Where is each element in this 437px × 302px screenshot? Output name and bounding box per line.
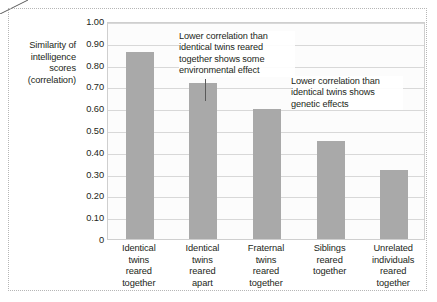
y-axis-title-line-3: scores (6, 63, 76, 75)
leader-line-svg (0, 0, 28, 14)
bar[interactable] (253, 109, 281, 239)
y-axis-title: Similarity of intelligence scores (corre… (6, 40, 76, 86)
x-axis-tick-label-line: together (107, 278, 171, 290)
y-axis-tick-label: 0.40 (72, 148, 104, 158)
x-axis-tick-label: Unrelatedindividualsrearedtogether (361, 243, 425, 289)
annotation-genetic-effects: Lower correlation than identical twins s… (291, 76, 403, 110)
x-axis-tick-label-line: Identical (107, 243, 171, 255)
annotation-1-line-2: identical twins reared (179, 42, 295, 53)
y-axis-title-line-2: intelligence (6, 52, 76, 64)
x-axis-tick-label-line: twins (171, 255, 235, 267)
x-axis-tick-label-line: Identical (171, 243, 235, 255)
x-axis-tick-label-line: reared (107, 266, 171, 278)
x-axis-tick-label-line: together (361, 278, 425, 290)
x-axis-tick-label-line: reared (171, 266, 235, 278)
x-axis-tick-label-line: reared (234, 266, 298, 278)
annotation-1-line-3: together shows some (179, 54, 295, 65)
y-axis-tick-label: 0.50 (72, 126, 104, 136)
y-axis-tick-label: 0.70 (72, 82, 104, 92)
y-axis-tick-label: 0.20 (72, 191, 104, 201)
x-axis-tick-label-line: reared (298, 255, 362, 267)
bar[interactable] (380, 170, 408, 239)
annotation-1-line-4: environmental effect (179, 65, 295, 76)
x-axis-tick-label-line: Unrelated (361, 243, 425, 255)
x-axis-tick-label-line: twins (234, 255, 298, 267)
x-axis-tick-label-line: together (298, 266, 362, 278)
x-axis-tick-label: Identicaltwinsrearedtogether (107, 243, 171, 289)
annotation-1-leader-line (205, 79, 206, 101)
x-axis-tick-label-line: apart (171, 278, 235, 290)
y-axis-tick-labels: 1.000.900.800.700.600.500.400.300.200.10… (72, 22, 104, 240)
x-axis-tick-label-line: Siblings (298, 243, 362, 255)
annotation-2-line-3: genetic effects (291, 99, 403, 110)
annotation-environmental-effect: Lower correlation than identical twins r… (179, 31, 295, 77)
y-axis-title-line-1: Similarity of (6, 40, 76, 52)
x-axis-tick-labels: IdenticaltwinsrearedtogetherIdenticaltwi… (107, 243, 425, 295)
y-axis-tick-label: 0.30 (72, 170, 104, 180)
y-axis-tick-label: 0 (72, 235, 104, 245)
annotation-2-line-1: Lower correlation than (291, 76, 403, 87)
bar[interactable] (126, 52, 154, 239)
bar[interactable] (189, 83, 217, 239)
bar[interactable] (317, 141, 345, 239)
x-axis-tick-label-line: individuals (361, 255, 425, 267)
annotation-2-line-2: identical twins shows (291, 87, 403, 98)
y-axis-tick-label: 0.60 (72, 104, 104, 114)
annotation-2-leader-line (0, 0, 28, 14)
chart-page: Similarity of intelligence scores (corre… (0, 0, 437, 302)
x-axis-tick-label-line: Fraternal (234, 243, 298, 255)
y-axis-title-line-4: (correlation) (6, 75, 76, 87)
x-axis-tick-label: Siblingsrearedtogether (298, 243, 362, 278)
x-axis-tick-label-line: together (234, 278, 298, 290)
y-axis-tick-label: 0.10 (72, 213, 104, 223)
y-axis-tick-label: 0.90 (72, 39, 104, 49)
x-axis-tick-label-line: twins (107, 255, 171, 267)
x-axis-tick-label: Identicaltwinsrearedapart (171, 243, 235, 289)
y-axis-tick-label: 1.00 (72, 17, 104, 27)
y-axis-tick-label: 0.80 (72, 61, 104, 71)
x-axis-tick-label-line: reared (361, 266, 425, 278)
annotation-1-line-1: Lower correlation than (179, 31, 295, 42)
x-axis-tick-label: Fraternaltwinsrearedtogether (234, 243, 298, 289)
